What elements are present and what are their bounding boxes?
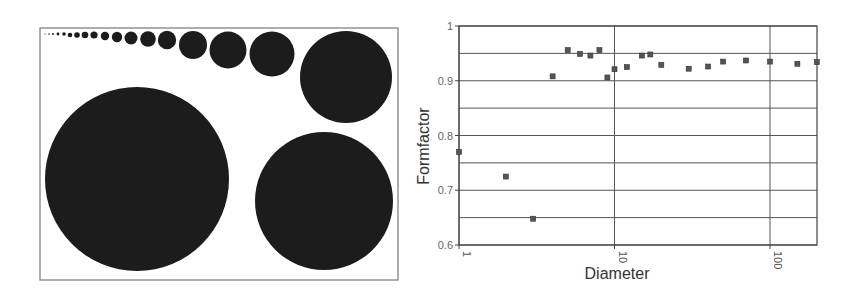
- data-point-marker: [639, 53, 644, 58]
- y-tick-label: 1: [447, 20, 453, 32]
- data-point-marker: [597, 48, 602, 53]
- data-point-marker: [686, 66, 691, 71]
- scatter-chart: 0.60.70.80.91 110100 Formfactor Diameter: [415, 20, 819, 282]
- data-point-marker: [768, 59, 773, 64]
- disc: [179, 31, 207, 59]
- disc: [250, 32, 295, 77]
- data-point-marker: [565, 48, 570, 53]
- data-point-marker: [706, 64, 711, 69]
- figure: 0.60.70.80.91 110100 Formfactor Diameter: [0, 0, 855, 302]
- disc: [101, 32, 109, 40]
- y-axis-ticks: 0.60.70.80.91: [438, 20, 459, 251]
- data-point-marker: [624, 65, 629, 70]
- disc: [90, 31, 97, 38]
- x-tick-label: 10: [617, 251, 629, 263]
- data-point-marker: [605, 75, 610, 80]
- data-point-marker: [457, 149, 462, 154]
- y-tick-label: 0.7: [438, 184, 453, 196]
- data-point-marker: [531, 216, 536, 221]
- data-point-marker: [814, 60, 819, 65]
- disc: [52, 33, 54, 35]
- data-point-marker: [721, 59, 726, 64]
- disc: [210, 32, 247, 69]
- disc: [255, 132, 393, 270]
- disc: [62, 32, 66, 36]
- discs-panel: [40, 28, 398, 280]
- data-point-marker: [588, 53, 593, 58]
- disc: [48, 33, 50, 35]
- x-tick-label: 100: [772, 251, 784, 269]
- disc: [74, 32, 80, 38]
- data-point-marker: [795, 61, 800, 66]
- data-point-marker: [612, 67, 617, 72]
- x-tick-label: 1: [461, 251, 473, 257]
- disc: [112, 32, 122, 42]
- x-axis-label: Diameter: [585, 265, 651, 282]
- disc: [125, 32, 138, 45]
- disc: [82, 32, 89, 39]
- data-points: [457, 48, 820, 222]
- disc: [44, 33, 45, 34]
- y-tick-label: 0.9: [438, 75, 453, 87]
- chart-grid: [459, 26, 817, 245]
- disc: [300, 31, 392, 123]
- data-point-marker: [659, 62, 664, 67]
- disc: [68, 33, 73, 38]
- disc: [140, 31, 156, 47]
- y-tick-label: 0.6: [438, 239, 453, 251]
- data-point-marker: [648, 52, 653, 57]
- disc: [57, 33, 60, 36]
- y-tick-label: 0.8: [438, 130, 453, 142]
- disc: [45, 87, 229, 271]
- disc: [158, 31, 176, 49]
- data-point-marker: [550, 74, 555, 79]
- data-point-marker: [743, 58, 748, 63]
- data-point-marker: [578, 51, 583, 56]
- data-point-marker: [503, 174, 508, 179]
- discs-group: [44, 31, 393, 271]
- y-axis-label: Formfactor: [415, 107, 432, 185]
